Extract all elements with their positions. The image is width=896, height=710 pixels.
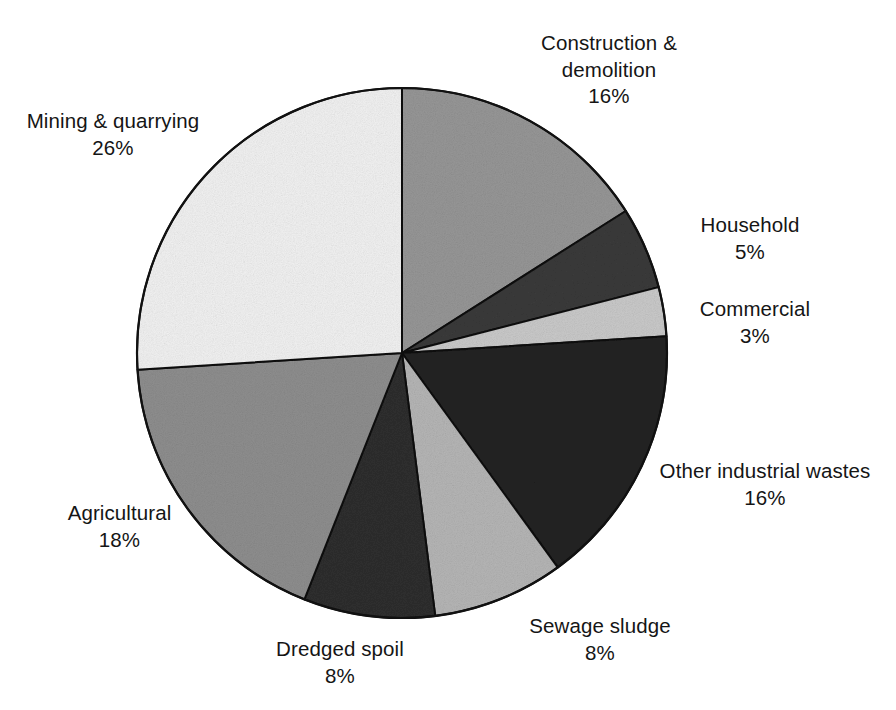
slice-label-name: Dredged spoil (249, 636, 431, 663)
slice-label-name: Agricultural (32, 500, 207, 527)
slice-label-value: 8% (249, 663, 431, 690)
slice-label-value: 16% (637, 485, 893, 512)
slice-label-value: 5% (655, 239, 845, 266)
slice-label-mining-quarrying: Mining & quarrying 26% (2, 108, 224, 161)
slice-label-sewage-sludge: Sewage sludge 8% (505, 613, 695, 666)
slice-label-name: Commercial (655, 296, 855, 323)
slice-label-value: 26% (2, 135, 224, 162)
pie-slice-group (137, 88, 667, 618)
slice-label-name-line2: demolition (493, 57, 725, 84)
slice-label-value: 8% (505, 640, 695, 667)
slice-label-name: Household (655, 212, 845, 239)
slice-label-construction-demolition: Construction & demolition 16% (493, 30, 725, 110)
slice-label-household: Household 5% (655, 212, 845, 265)
slice-label-other-industrial-wastes: Other industrial wastes 16% (637, 458, 893, 511)
slice-label-agricultural: Agricultural 18% (32, 500, 207, 553)
slice-label-value: 3% (655, 323, 855, 350)
slice-label-name: Sewage sludge (505, 613, 695, 640)
slice-label-name: Construction & (493, 30, 725, 57)
slice-label-value: 16% (493, 83, 725, 110)
slice-label-dredged-spoil: Dredged spoil 8% (249, 636, 431, 689)
slice-label-commercial: Commercial 3% (655, 296, 855, 349)
slice-label-name: Mining & quarrying (2, 108, 224, 135)
pie-chart: Construction & demolition 16% Mining & q… (0, 0, 896, 710)
slice-label-name: Other industrial wastes (637, 458, 893, 485)
pie-chart-canvas (0, 0, 896, 710)
slice-label-value: 18% (32, 527, 207, 554)
